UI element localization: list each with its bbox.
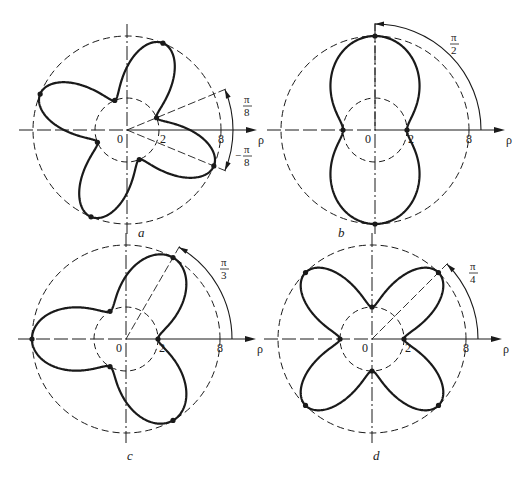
inner-point-dot — [107, 364, 112, 369]
angle-label: −π8 — [235, 143, 252, 168]
petal-tip-dot — [170, 418, 175, 423]
arc-arrow-icon — [225, 89, 231, 98]
origin-label: 0 — [116, 341, 122, 355]
inner-point-dot — [155, 336, 160, 341]
arc-arrow-icon — [225, 161, 231, 170]
panel-b: ρ028π2b — [267, 20, 512, 240]
inner-point-dot — [369, 304, 374, 309]
panel-caption: a — [138, 225, 145, 240]
outer-radius-label: 8 — [218, 132, 224, 146]
petal-tip-dot — [160, 41, 165, 46]
inner-point-dot — [112, 98, 117, 103]
svg-text:4: 4 — [470, 273, 476, 285]
rho-axis-label: ρ — [503, 342, 509, 356]
axis-arrow-icon — [494, 127, 505, 133]
axis-arrow-icon — [245, 336, 256, 342]
panel-caption: d — [373, 448, 380, 463]
inner-point-dot — [404, 127, 409, 132]
inner-point-dot — [137, 157, 142, 162]
svg-text:π: π — [221, 256, 227, 268]
origin-label: 0 — [362, 341, 368, 355]
polar-curves-figure: ρ028π8−π8aρ028π2bρ028π3cρ028π4d — [0, 0, 532, 489]
petal-tip-dot — [29, 336, 34, 341]
rho-axis-label: ρ — [257, 342, 263, 356]
arc-arrow-icon — [375, 22, 384, 27]
angle-label: π4 — [469, 260, 478, 285]
inner-point-dot — [154, 115, 159, 120]
svg-text:2: 2 — [451, 44, 457, 56]
angle-label: π2 — [450, 31, 459, 56]
svg-text:−: − — [235, 149, 241, 161]
panel-c: ρ028π3c — [18, 233, 263, 463]
inner-point-dot — [340, 127, 345, 132]
petal-tip-dot — [372, 221, 377, 226]
svg-text:8: 8 — [244, 156, 250, 168]
petal-tip-dot — [436, 403, 441, 408]
svg-text:8: 8 — [244, 106, 250, 118]
axis-arrow-icon — [491, 336, 502, 342]
outer-radius-label: 8 — [463, 341, 469, 355]
rho-axis-label: ρ — [258, 133, 264, 147]
petal-tip-dot — [303, 403, 308, 408]
inner-point-dot — [107, 309, 112, 314]
svg-text:3: 3 — [221, 269, 227, 281]
arc-arrow-icon — [179, 247, 188, 254]
inner-point-dot — [369, 368, 374, 373]
outer-radius-label: 8 — [466, 132, 472, 146]
panel-caption: b — [338, 225, 345, 240]
rho-axis-label: ρ — [506, 133, 512, 147]
axis-arrow-icon — [246, 127, 257, 133]
inner-point-dot — [401, 336, 406, 341]
angle-label: π3 — [220, 256, 229, 281]
petal-tip-dot — [88, 214, 93, 219]
svg-text:π: π — [244, 143, 250, 155]
svg-text:π: π — [244, 93, 250, 105]
panel-caption: c — [127, 448, 133, 463]
angle-ray — [372, 261, 450, 339]
petal-tip-dot — [303, 270, 308, 275]
inner-point-dot — [337, 336, 342, 341]
angle-label: π8 — [243, 93, 252, 118]
angle-ray — [126, 244, 181, 339]
inner-point-dot — [95, 140, 100, 145]
svg-text:π: π — [451, 31, 457, 43]
angle-ray — [127, 88, 229, 130]
svg-text:π: π — [470, 260, 476, 272]
origin-label: 0 — [365, 132, 371, 146]
outer-radius-label: 8 — [217, 341, 223, 355]
origin-label: 0 — [117, 132, 123, 146]
panel-d: ρ028π4d — [264, 233, 509, 463]
petal-tip-dot — [38, 91, 43, 96]
panel-a: ρ028π8−π8a — [19, 24, 264, 240]
